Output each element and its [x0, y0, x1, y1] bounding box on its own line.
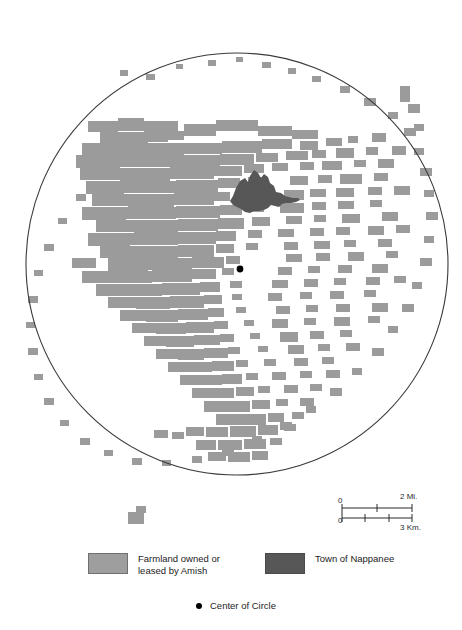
- scale-miles-zero-label: 0: [338, 496, 342, 505]
- farmland-parcel: [192, 456, 202, 463]
- scale-km-zero-label: 0: [338, 516, 342, 525]
- farmland-parcel: [348, 252, 364, 261]
- farmland-parcel: [288, 68, 296, 74]
- thematic-map[interactable]: [0, 0, 462, 630]
- farmland-parcel: [230, 426, 256, 437]
- farmland-parcel: [300, 141, 318, 150]
- farmland-parcel: [306, 305, 318, 312]
- farmland-parcel: [314, 215, 326, 222]
- farmland-parcel: [82, 143, 122, 155]
- farmland-parcel: [154, 430, 168, 438]
- farmland-parcel: [268, 293, 282, 301]
- farmland-parcel: [184, 124, 216, 136]
- farmland-parcel: [96, 220, 134, 232]
- farmland-parcel: [368, 316, 380, 323]
- farmland-parcel: [394, 186, 410, 195]
- farmland-parcel: [276, 399, 288, 406]
- farmland-parcel: [44, 398, 54, 405]
- farmland-parcel: [200, 282, 220, 292]
- legend-center-label: Center of Circle: [210, 600, 276, 611]
- farmland-parcel: [196, 440, 216, 450]
- farmland-parcel: [174, 155, 220, 167]
- farmland-parcel: [124, 148, 134, 155]
- farmland-parcel: [306, 406, 316, 413]
- farmland-parcel: [120, 155, 174, 167]
- farmland-parcel: [344, 240, 356, 247]
- farmland-parcel: [310, 189, 326, 197]
- farmland-parcel: [216, 120, 258, 131]
- center-of-circle-dot[interactable]: [237, 266, 244, 273]
- farmland-parcel: [134, 220, 178, 233]
- farmland-parcel: [216, 414, 240, 425]
- farmland-parcel: [312, 76, 321, 82]
- farmland-parcel: [178, 232, 216, 244]
- farmland-parcel: [186, 322, 214, 333]
- farmland-parcel: [256, 153, 278, 162]
- farmland-parcel: [316, 253, 330, 261]
- farmland-parcel: [222, 141, 262, 153]
- farmland-parcel: [92, 194, 128, 206]
- farmland-parcel: [194, 335, 220, 345]
- farmland-parcel: [246, 243, 258, 250]
- farmland-parcel: [176, 180, 218, 193]
- center-dot-icon: [196, 603, 202, 609]
- farmland-parcel: [108, 297, 136, 308]
- farmland-parcel: [126, 207, 176, 219]
- farmland-parcel: [304, 279, 318, 287]
- farmland-parcel: [322, 357, 334, 364]
- farmland-parcel: [136, 297, 170, 309]
- farmland-parcel: [340, 86, 350, 93]
- farmland-parcel: [286, 151, 308, 160]
- farmland-parcel: [26, 322, 35, 328]
- farmland-parcel: [222, 268, 234, 275]
- farmland-parcel: [312, 202, 326, 210]
- farmland-parcel: [76, 155, 120, 168]
- farmland-parcel: [264, 359, 276, 366]
- farmland-parcel: [338, 265, 352, 273]
- legend-item-center[interactable]: Center of Circle: [196, 600, 276, 611]
- farmland-parcel: [88, 121, 118, 132]
- farmland-parcel: [200, 375, 222, 385]
- farmland-parcel: [230, 281, 242, 288]
- farmland-parcel: [424, 190, 434, 197]
- farmland-parcel: [130, 233, 178, 245]
- farmland-parcel: [86, 181, 124, 194]
- legend-item-farmland[interactable]: Farmland owned or leased by Amish: [88, 553, 220, 576]
- farmland-parcel: [212, 361, 234, 371]
- farmland-parcel: [312, 150, 326, 158]
- farmland-parcel: [300, 398, 314, 406]
- farmland-parcel: [426, 212, 438, 220]
- farmland-parcel: [156, 349, 178, 359]
- farmland-swatch-icon: [88, 553, 128, 574]
- farmland-parcel: [72, 258, 96, 268]
- farmland-parcel: [326, 370, 340, 378]
- farmland-parcel: [188, 362, 212, 372]
- farmland-parcel: [120, 70, 128, 76]
- farmland-parcel: [80, 438, 90, 445]
- farmland-parcel: [148, 258, 192, 270]
- farmland-parcel: [412, 282, 422, 289]
- town-swatch-icon: [265, 553, 305, 574]
- farmland-parcel: [270, 438, 282, 445]
- farmland-parcel: [204, 348, 228, 358]
- legend-item-town[interactable]: Town of Nappanee: [265, 553, 394, 574]
- farmland-parcel: [144, 336, 166, 346]
- farmland-parcel: [96, 284, 126, 296]
- farmland-parcel: [82, 271, 114, 283]
- farmland-parcel: [340, 330, 352, 337]
- farmland-parcel: [372, 133, 386, 142]
- farmland-parcel: [192, 388, 212, 398]
- farmland-parcel: [392, 146, 406, 155]
- farmland-parcel: [98, 170, 107, 176]
- farmland-parcel: [180, 375, 200, 385]
- farmland-parcel: [314, 241, 330, 249]
- farmland-parcel: [382, 212, 398, 221]
- farmland-parcel: [236, 387, 254, 396]
- farmland-parcel: [258, 386, 270, 393]
- farmland-parcel: [208, 60, 216, 66]
- farmland-parcel: [408, 104, 420, 113]
- farmland-parcel: [250, 333, 260, 339]
- scale-km-max-label: 3 Km.: [400, 523, 421, 532]
- farmland-parcel: [176, 64, 183, 69]
- farmland-parcel: [108, 258, 148, 271]
